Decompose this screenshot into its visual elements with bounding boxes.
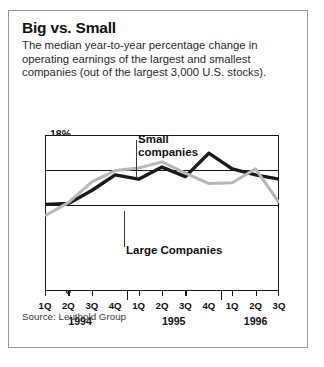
series-line bbox=[45, 162, 279, 216]
large-companies-leader-line bbox=[124, 211, 125, 247]
x-axis-tick bbox=[68, 291, 69, 296]
x-axis-quarter-label: 1Q bbox=[219, 300, 245, 311]
x-axis-quarter-label: 2Q bbox=[149, 300, 175, 311]
x-axis-quarter-label: 4Q bbox=[102, 300, 128, 311]
series-lines bbox=[45, 135, 279, 291]
x-axis-year-divider-tick bbox=[127, 291, 128, 300]
x-axis-year-divider-tick bbox=[221, 291, 222, 300]
x-axis-quarter-label: 3Q bbox=[79, 300, 105, 311]
x-axis-tick bbox=[278, 291, 279, 296]
x-axis-quarter-label: 3Q bbox=[266, 300, 292, 311]
chart-card: Big vs. Small The median year-to-year pe… bbox=[8, 10, 308, 348]
x-axis-ticks bbox=[45, 291, 279, 300]
small-companies-label-line2: companies bbox=[138, 146, 198, 159]
x-axis-tick bbox=[139, 291, 140, 296]
chart-subtitle: The median year-to-year percentage chang… bbox=[22, 39, 294, 80]
x-axis-tick bbox=[185, 291, 186, 296]
x-axis-quarter-label: 1Q bbox=[32, 300, 58, 311]
x-axis-quarter-label: 1Q bbox=[126, 300, 152, 311]
x-axis-year-label: 1996 bbox=[232, 315, 280, 327]
x-axis-year-label: 1995 bbox=[150, 315, 198, 327]
x-axis-quarter-label: 2Q bbox=[55, 300, 81, 311]
x-axis-tick bbox=[256, 291, 257, 296]
source-note: Source: Leuthold Group bbox=[22, 311, 126, 322]
x-axis-quarter-label: 4Q bbox=[196, 300, 222, 311]
x-axis-tick bbox=[232, 291, 233, 296]
line-chart: 18% 14 10 0 Small companies Large Compan… bbox=[9, 116, 309, 306]
x-axis-quarter-label: 2Q bbox=[243, 300, 269, 311]
large-companies-label: Large Companies bbox=[126, 244, 223, 257]
x-axis-tick bbox=[92, 291, 93, 296]
x-axis-tick bbox=[45, 291, 46, 296]
x-axis-quarter-label: 3Q bbox=[172, 300, 198, 311]
x-axis-tick bbox=[162, 291, 163, 296]
small-companies-label-line1: Small bbox=[138, 133, 198, 146]
small-companies-label: Small companies bbox=[138, 133, 198, 158]
page-title: Big vs. Small bbox=[22, 19, 116, 37]
